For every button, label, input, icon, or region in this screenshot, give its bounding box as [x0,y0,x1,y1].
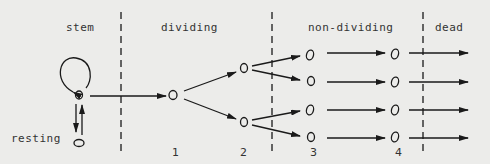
region-label-non-dividing: non-dividing [308,21,393,34]
gen3-cell-3 [305,104,314,115]
arrow-gen2-to-gen3-a [252,56,300,66]
gen4-cell-3 [390,104,399,115]
generation-2: 2 [240,146,247,159]
arrow-gen2-to-gen3-d [252,125,300,136]
gen3-cell-2 [308,77,315,86]
arrow-gen2-to-gen3-b [252,70,300,80]
generation-3: 3 [310,146,317,159]
gen4-cell-1 [390,48,399,59]
gen2-cell-bottom [241,118,248,127]
gen3-cell-1 [305,49,314,60]
generation-4: 4 [395,146,402,159]
region-label-stem: stem [66,21,95,34]
gen4-cell-4 [390,131,399,142]
gen1-cell [169,91,177,100]
arrow-gen1-to-gen2-bottom [184,99,236,119]
resting-label: resting [11,132,61,145]
gen2-cell-top [241,64,248,73]
gen4-cell-2 [390,76,399,87]
region-label-dividing: dividing [161,21,218,34]
generation-1: 1 [172,146,179,159]
arrow-gen1-to-gen2-top [184,72,236,91]
gen3-cell-4 [308,133,315,142]
stem-cell [76,91,83,99]
region-label-dead: dead [435,21,464,34]
arrow-gen2-to-gen3-c [252,111,300,120]
resting-cell [74,140,84,147]
cell-lineage-diagram: stem dividing non-dividing dead resting [0,0,490,164]
self-renewal-loop [60,58,90,92]
